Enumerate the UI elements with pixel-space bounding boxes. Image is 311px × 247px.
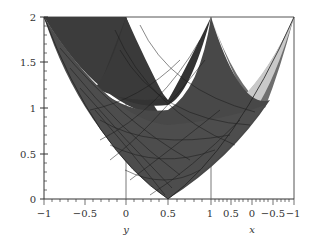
z-tick-label: 2 [30, 12, 36, 23]
y-tick-label: −0.5 [73, 208, 97, 219]
x-tick-label: 0 [249, 208, 255, 219]
paraboloid-surface-chart: 2 1.5 1 0.5 0 −1 −0.5 0 0.5 [0, 0, 311, 247]
z-tick-label: 0 [30, 194, 36, 205]
y-tick-label: 0.5 [160, 208, 176, 219]
y-tick-label: −1 [37, 208, 52, 219]
x-axis-label: x [249, 224, 255, 235]
bottom-axis [44, 199, 294, 205]
surface [44, 17, 294, 199]
x-tick-label: −0.5 [261, 208, 285, 219]
z-tick-label: 1.5 [20, 57, 36, 68]
y-axis-label: y [122, 224, 129, 235]
z-tick-label: 1 [30, 103, 36, 114]
x-tick-label: 1 [207, 208, 213, 219]
z-tick-label: 0.5 [20, 149, 36, 160]
x-tick-label: 0.5 [223, 208, 239, 219]
y-tick-label: 0 [123, 208, 129, 219]
x-tick-label: −1 [286, 208, 301, 219]
bottom-tick-labels: −1 −0.5 0 0.5 1 0.5 0 −0.5 −1 y x [37, 208, 301, 235]
